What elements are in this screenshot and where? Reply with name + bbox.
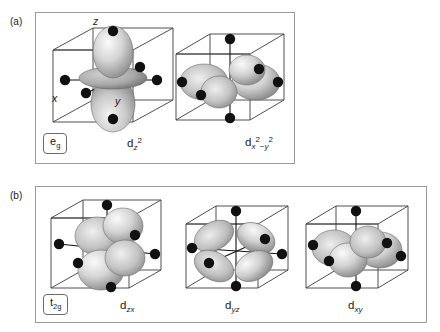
badge-eg-sub: g [56,141,60,150]
orbital-cell-dx2y2 [170,26,290,138]
panel-tag-a: (a) [10,16,22,27]
dx2y2-suby: y [265,142,269,151]
lobe-dx2y2-front [201,76,237,108]
dx2y2-sup2: 2 [269,135,273,144]
axis-label-y: y [115,95,120,107]
badge-t2g-sub: 2g [53,302,61,311]
d-orbital-figure: (a) eg [0,0,440,332]
dxy-sub: xy [354,305,362,314]
orbital-drawing-dzx [45,192,170,302]
axis-label-z: z [93,15,98,27]
panel-tag-b: (b) [10,190,22,201]
dyz-sub: yz [231,305,239,314]
lobe-dzx-lower-right [105,240,145,276]
axis-label-x: x [52,92,57,104]
orbital-drawing-dyz [180,198,295,302]
dz2-sup: 2 [137,136,141,145]
orbital-label-dzx: dzx [120,300,134,312]
orbital-label-dz2: dz2 [127,138,142,150]
orbital-drawing-dz2 [45,18,180,136]
orbital-cell-dzx [45,192,170,302]
orbital-cell-dxy [300,198,415,302]
orbital-cell-dyz [180,198,295,302]
orbital-label-dx2y2: dx2−y2 [245,137,273,149]
dzx-sub: zx [126,305,134,314]
orbital-cell-dz2 [45,18,180,136]
orbital-label-dxy: dxy [348,300,362,312]
orbital-drawing-dx2y2 [170,26,290,138]
symmetry-badge-eg: eg [43,133,67,154]
orbital-label-dyz: dyz [225,300,239,312]
orbital-drawing-dxy [300,198,415,302]
lobe-dxy-back [350,226,386,258]
dx2y2-minus: − [260,142,265,151]
